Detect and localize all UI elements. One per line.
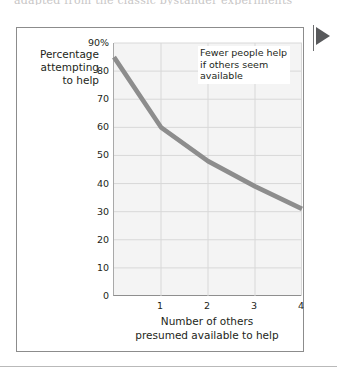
x-axis-title: Number of others presumed available to h… [111,315,303,342]
clipped-top-text: adapted from the classic bystander exper… [14,0,314,5]
y-tick-label: 20 [65,235,109,245]
y-tick-label: 0 [65,291,109,301]
footer-rule [0,366,337,367]
x-tick-label: 4 [289,300,313,312]
x-tick-label: 3 [242,300,266,312]
chart-annotation: Fewer people help if others seem availab… [198,46,290,84]
marker-rule [313,25,314,51]
figure-frame: Percentage attempting to help 90% 80 70 … [16,27,304,352]
annotation-line-2: if others seem [200,59,288,71]
annotation-line-3: available [200,70,288,82]
y-tick-label: 80 [65,66,109,76]
y-tick-label: 10 [65,263,109,273]
x-axis-title-line-1: Number of others [111,315,303,329]
plot-area: Fewer people help if others seem availab… [113,43,301,296]
y-tick-label: 30 [65,207,109,217]
y-tick-label: 40 [65,179,109,189]
right-triangle-icon [316,27,330,45]
y-tick-label: 70 [65,94,109,104]
y-tick-label: 60 [65,122,109,132]
y-axis-tick-labels: 90% 80 70 60 50 40 30 20 10 0 [63,43,109,296]
x-tick-label: 2 [195,300,219,312]
x-axis-tick-labels: 1 2 3 4 [113,300,313,314]
x-axis-title-line-2: presumed available to help [111,329,303,343]
y-tick-label: 50 [65,150,109,160]
y-tick-label: 90% [65,38,109,48]
annotation-line-1: Fewer people help [200,47,288,59]
x-tick-label: 1 [148,300,172,312]
